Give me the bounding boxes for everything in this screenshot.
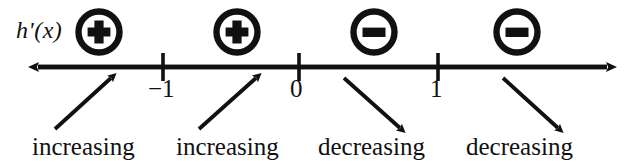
behavior-label-2: increasing [176,134,279,159]
sign-symbol-minus-1 [354,12,395,53]
tick-label-one: 1 [430,76,443,101]
sign-symbol-plus-2 [217,12,258,53]
behavior-label-3: decreasing [318,134,425,159]
tick-label-zero: 0 [290,76,303,101]
behavior-label-4: decreasing [466,134,573,159]
function-label: h'(x) [16,18,62,42]
pointer-arrows [55,78,558,129]
pointer-arrow-increasing-2 [199,78,256,129]
pointer-arrow-increasing-1 [55,78,111,129]
sign-chart-figure: h'(x) −1 0 1 increasing increasing decre… [0,0,642,168]
behavior-label-1: increasing [32,134,135,159]
tick-label-neg-one: −1 [148,76,175,101]
pointer-arrow-decreasing-1 [344,78,400,128]
sign-symbol-minus-2 [497,12,538,53]
sign-symbol-plus-1 [79,12,120,53]
pointer-arrow-decreasing-2 [503,78,558,128]
